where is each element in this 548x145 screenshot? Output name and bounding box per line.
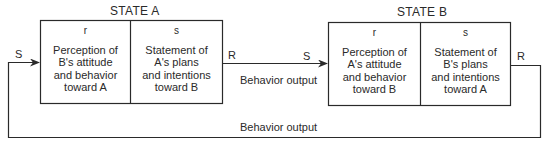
s-input-a-label: S [15,48,22,61]
behavior-output-bottom: Behavior output [240,121,317,134]
r-label: r [329,27,420,40]
state-a-title: STATE A [110,4,160,18]
state-b-title: STATE B [397,5,447,19]
s-input-b-label: S [303,50,310,63]
state-b-perception: r Perception of A's attitude and behavio… [329,27,420,96]
state-a-statement: s Statement of A's plans and intentions … [131,25,222,94]
behavior-output-middle: Behavior output [240,74,317,87]
r-output-b-label: R [517,50,525,63]
r-label: r [41,25,130,38]
state-b-statement: s Statement of B's plans and intentions … [421,27,510,96]
interaction-diagram: STATE A STATE B r Perception of B's atti… [0,0,548,145]
state-a-perception: r Perception of B's attitude and behavio… [41,25,130,94]
r-output-a-label: R [228,49,236,62]
s-label: s [421,27,510,40]
s-label: s [131,25,222,38]
